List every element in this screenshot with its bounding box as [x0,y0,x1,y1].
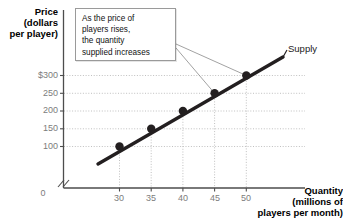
data-point-30-100 [115,142,123,150]
y-tick-label-250: 250 [22,88,58,98]
origin-label: 0 [36,188,50,198]
y-tick-label-300: $300 [22,70,58,80]
y-tick-label-150: 150 [22,123,58,133]
x-tick-label-40: 40 [171,193,195,203]
y-tick-label-200: 200 [22,105,58,115]
x-tick-label-30: 30 [107,193,131,203]
data-point-45-250 [210,89,218,97]
supply-series-label: Supply [288,43,317,54]
supply-curve [98,57,283,164]
x-tick-label-45: 45 [203,193,227,203]
leader-line-to-point-45 [176,48,215,93]
data-point-50-300 [242,71,250,79]
supply-label-leader [283,50,287,57]
data-point-35-150 [147,125,155,133]
leader-line-to-point-50 [176,44,246,76]
annotation-callout: As the price of players rises, the quant… [75,8,176,61]
data-point-40-200 [179,107,187,115]
supply-curve-figure: Price (dollars per player) Quantity (mil… [0,0,343,223]
y-axis-title: Price (dollars per player) [0,6,58,39]
y-tick-label-100: 100 [22,141,58,151]
annotation-callout-text: As the price of players rises, the quant… [82,13,171,58]
x-tick-label-35: 35 [139,193,163,203]
x-tick-label-50: 50 [234,193,258,203]
vertical-droplines [120,76,247,189]
